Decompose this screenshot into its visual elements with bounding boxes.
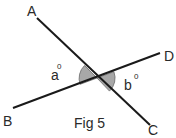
point-label-a: A xyxy=(27,3,37,19)
diagram-svg: A D B C a 0 b 0 Fig 5 xyxy=(0,0,176,138)
point-label-c: C xyxy=(148,122,158,138)
angle-label-b: b xyxy=(124,77,132,93)
figure-5-diagram: A D B C a 0 b 0 Fig 5 xyxy=(0,0,176,138)
angle-label-b-superscript: 0 xyxy=(134,72,139,81)
point-label-b: B xyxy=(3,113,12,129)
figure-caption: Fig 5 xyxy=(74,115,105,131)
angle-label-a-superscript: 0 xyxy=(57,62,62,71)
point-label-d: D xyxy=(164,48,174,64)
